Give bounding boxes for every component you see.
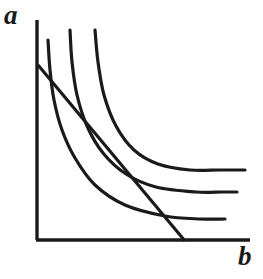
curves-group [38, 30, 245, 241]
budget-line [38, 65, 185, 241]
x-axis-label: b [238, 243, 252, 270]
y-axis-label: a [4, 2, 18, 29]
indifference-curve-3 [95, 30, 245, 170]
indifference-curve-2 [70, 30, 237, 192]
axes-group [36, 20, 250, 240]
plot-canvas [0, 0, 263, 279]
indifference-curve-figure: a b [0, 0, 263, 279]
